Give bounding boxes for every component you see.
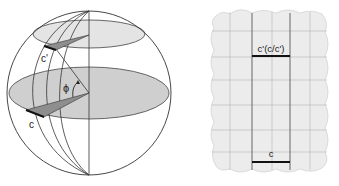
map-svg: c'(c/c') c bbox=[200, 0, 339, 186]
sphere-svg: ϕ c' c bbox=[0, 0, 180, 186]
c-label: c bbox=[29, 119, 34, 130]
top-segment-label: c'(c/c') bbox=[258, 43, 285, 54]
phi-label: ϕ bbox=[63, 82, 69, 94]
bottom-segment-label: c bbox=[269, 148, 274, 159]
sphere-diagram: ϕ c' c bbox=[0, 0, 180, 186]
cylindrical-map-diagram: c'(c/c') c bbox=[200, 0, 339, 186]
c-prime-label: c' bbox=[41, 53, 48, 64]
